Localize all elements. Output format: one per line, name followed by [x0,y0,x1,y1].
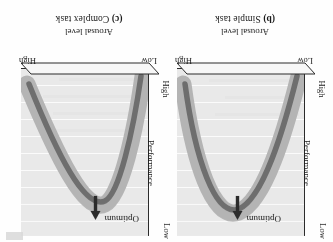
optimum-arrow-icon-complex [90,196,101,220]
figure-page: Optimum Low High Performance Low High Ar… [0,0,333,242]
plot-area-complex-task [21,68,149,236]
caption-text-simple: Simple task [215,14,261,24]
optimum-arrow-icon-simple [232,196,243,220]
curve-complex-task [21,68,149,236]
chart-panel-simple-task: Optimum Low High Performance Low High Ar… [169,10,321,242]
caption-lead-complex: (c) [112,14,123,24]
caption-lead-simple: (b) [263,14,275,24]
chart-panel-complex-task: Optimum Low High Performance Low High Ar… [13,10,165,242]
y-tick-low-simple: Low [318,223,328,239]
y-tick-high-simple: High [318,81,328,98]
curve-band [27,76,143,205]
x-tick-low-simple: Low [297,56,313,66]
x-tick-high-complex: High [19,56,36,66]
curve-band [183,76,299,213]
x-tick-low-complex: Low [141,56,157,66]
y-axis-title-complex: Performance [146,115,156,211]
caption-text-complex: Complex task [55,14,109,24]
caption-simple-task: (b) Simple task [169,14,321,24]
rotated-figure-container: Optimum Low High Performance Low High Ar… [0,0,333,242]
x-tick-high-simple: High [175,56,192,66]
optimum-label-complex: Optimum [104,214,139,224]
y-tick-low-complex: Low [162,223,172,239]
axis-depth-edge-complex [21,61,159,75]
caption-complex-task: (c) Complex task [13,14,165,24]
axis-depth-edge-simple [177,61,315,75]
x-axis-title-complex: Arousal level [13,27,165,37]
x-axis-title-simple: Arousal level [169,27,321,37]
scan-artifact-smudge [6,232,23,240]
y-axis-title-simple: Performance [302,115,312,211]
y-tick-high-complex: High [162,81,172,98]
optimum-label-simple: Optimum [246,214,281,224]
